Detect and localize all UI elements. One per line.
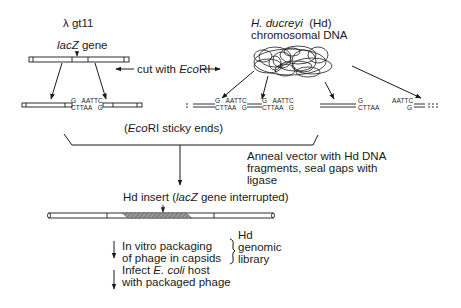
vector-left-arm [22, 103, 72, 107]
vector-dna-bar [29, 57, 129, 62]
vector-name-label: λ gt11 [63, 17, 93, 30]
hd-sticky-bottom-4: G [407, 105, 412, 112]
merge-bracket [64, 134, 318, 145]
recombinant-dna-bar [48, 213, 275, 218]
cut-prefix: cut with [137, 63, 179, 75]
recombinant-gene-italic: lacZ [176, 191, 198, 203]
organism-abbrev: (Hd) [309, 17, 331, 29]
gene-word: gene [79, 39, 108, 51]
library-brace [230, 239, 235, 264]
infect-suffix: host [185, 264, 210, 276]
caption-rest: RI sticky ends) [148, 122, 223, 134]
tangle-arrow-4 [352, 66, 421, 98]
tangle-arrow-3 [325, 82, 334, 99]
chromosomal-dna-tangle [254, 46, 332, 77]
infect-line-2: with packaged phage [122, 276, 231, 289]
vector-right-arrow [95, 63, 106, 99]
organism-italic: H. ducreyi [251, 17, 303, 29]
library-label-3: library [238, 253, 269, 266]
lacz-gene-label: lacZ gene [57, 39, 108, 52]
enzyme-italic: Eco [179, 63, 199, 75]
lacz-italic: lacZ [57, 39, 79, 51]
recombinant-suffix: gene interrupted) [198, 191, 289, 203]
hd-insert-region [122, 213, 192, 218]
caption-enzyme-italic: Eco [128, 122, 148, 134]
hd-sticky-bottom-2: CTTAA G [262, 105, 294, 112]
enzyme-rest: RI [199, 63, 211, 75]
vector-sticky-bottom: CTTAA G [71, 105, 103, 112]
tangle-arrow-2 [262, 76, 268, 99]
recombinant-label: Hd insert (lacZ gene interrupted) [123, 191, 289, 204]
ecoli-italic: E. coli [153, 264, 184, 276]
tangle-arrow-1 [222, 71, 254, 98]
hd-sticky-bottom-3: CTTAA [358, 105, 379, 112]
recombinant-prefix: Hd insert ( [123, 191, 176, 203]
anneal-step-line-3: ligase [247, 174, 277, 187]
cut-step-label: cut with EcoRI [137, 63, 211, 76]
chromosomal-dna-label: chromosomal DNA [251, 29, 348, 42]
hd-sticky-bottom-1: CTTAA G [215, 105, 247, 112]
infect-prefix: Infect [122, 264, 153, 276]
vector-left-arrow [51, 63, 62, 99]
sticky-ends-caption: (EcoRI sticky ends) [124, 122, 223, 135]
vector-right-arm [103, 103, 142, 107]
